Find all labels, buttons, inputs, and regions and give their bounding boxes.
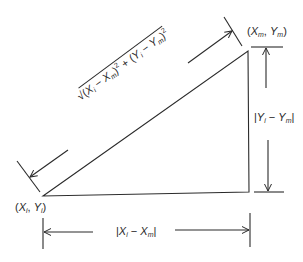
- horizontal-distance-label: |Xi − Xm|: [116, 226, 156, 238]
- hyp-tick-bottom: [17, 161, 40, 192]
- end-point-label: (Xm, Ym): [247, 26, 287, 38]
- hyp-tick-top: [224, 17, 242, 46]
- distance-diagram: (Xm, Ym) (Xi, Yi) |Yi − Ym| |Xi − Xm| √(…: [0, 0, 303, 262]
- hyp-arrow-upper: [188, 31, 232, 63]
- hyp-arrow-lower: [30, 150, 68, 177]
- triangle: [43, 51, 249, 196]
- start-point-label: (Xi, Yi): [15, 202, 46, 214]
- vertical-distance-label: |Yi − Ym|: [254, 112, 294, 124]
